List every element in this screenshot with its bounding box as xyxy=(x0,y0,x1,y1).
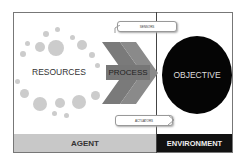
actuators-arrow-icon xyxy=(168,114,176,126)
sensors-callout: SENSORS xyxy=(117,21,177,32)
agent-bar: AGENT xyxy=(14,134,156,152)
agent-label: AGENT xyxy=(71,139,99,148)
environment-bar: ENVIRONMENT xyxy=(157,134,232,152)
resources-label: RESOURCES xyxy=(32,67,86,77)
objective-label: OBJECTIVE xyxy=(173,70,220,80)
sensors-label: SENSORS xyxy=(140,25,155,29)
actuators-callout: ACTUATORS xyxy=(115,115,173,126)
actuators-label: ACTUATORS xyxy=(135,119,153,123)
sensors-arrow-icon xyxy=(112,25,122,35)
objective-circle: OBJECTIVE xyxy=(162,36,232,114)
process-label: PROCESS xyxy=(106,65,150,80)
environment-label: ENVIRONMENT xyxy=(167,139,222,148)
